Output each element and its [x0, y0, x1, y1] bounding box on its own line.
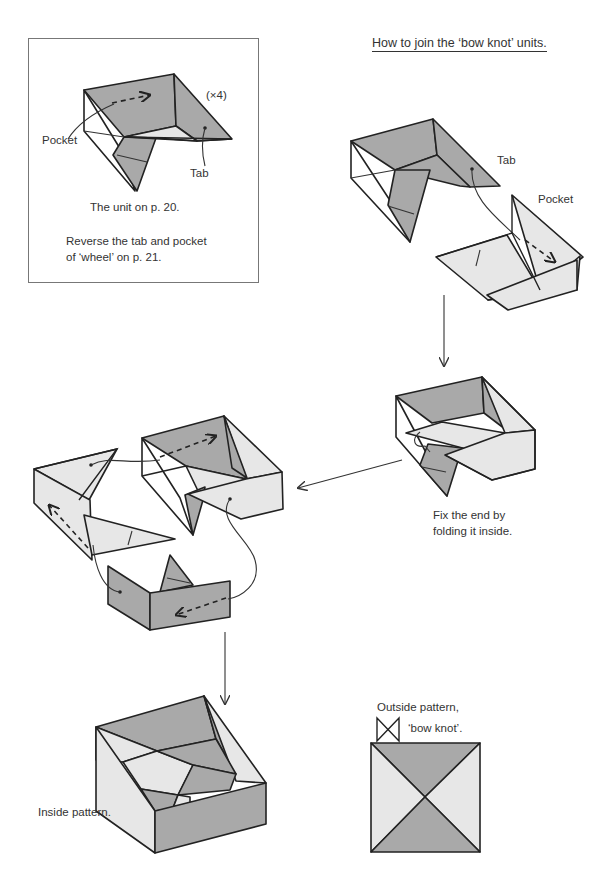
- origami-diagrams: [0, 0, 600, 885]
- inset-pocket-label: Pocket: [42, 133, 77, 148]
- inset-tab-label: Tab: [190, 166, 209, 181]
- step2-caption-line2: folding it inside.: [433, 524, 512, 539]
- step1-diagram: [351, 119, 583, 310]
- outside-pattern-label: Outside pattern,: [377, 700, 459, 715]
- step-arrow-left: [298, 460, 402, 488]
- inset-note-line2: of ‘wheel’ on p. 21.: [66, 250, 161, 265]
- outside-pattern-square: [371, 743, 480, 852]
- bow-knot-label: ‘bow knot’.: [408, 721, 462, 736]
- bow-knot-icon: [377, 718, 399, 741]
- step1-tab-label: Tab: [497, 153, 516, 168]
- inside-pattern-box: [96, 696, 266, 853]
- step3-diagram: [34, 416, 283, 630]
- step2-caption-line1: Fix the end by: [433, 508, 505, 523]
- multiplier-label: (×4): [206, 88, 227, 103]
- step2-diagram: [396, 377, 535, 496]
- step1-pocket-label: Pocket: [538, 192, 573, 207]
- inside-pattern-label: Inside pattern.: [38, 805, 111, 820]
- inset-note-line1: Reverse the tab and pocket: [66, 234, 207, 249]
- inset-caption: The unit on p. 20.: [90, 200, 180, 215]
